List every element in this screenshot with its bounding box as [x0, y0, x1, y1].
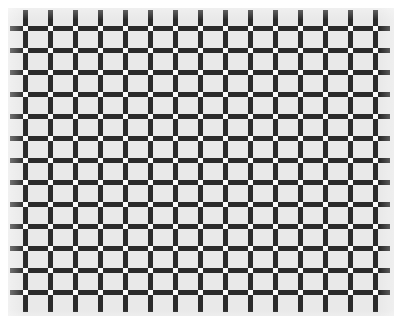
- grid-intersection-node: [148, 290, 153, 295]
- grid-intersection-node: [98, 70, 103, 75]
- grid-intersection-node: [23, 48, 28, 53]
- grid-intersection-node: [198, 26, 203, 31]
- grid-intersection-node: [223, 290, 228, 295]
- grid-intersection-node: [223, 246, 228, 251]
- grid-intersection-node: [373, 158, 378, 163]
- grid-intersection-node: [198, 158, 203, 163]
- grid-intersection-node: [273, 92, 278, 97]
- grid-intersection-node: [273, 26, 278, 31]
- grid-intersection-node: [248, 268, 253, 273]
- grid-intersection-node: [373, 224, 378, 229]
- grid-intersection-node: [123, 48, 128, 53]
- grid-intersection-node: [123, 180, 128, 185]
- grid-intersection-node: [73, 202, 78, 207]
- grid-intersection-node: [123, 114, 128, 119]
- grid-intersection-node: [298, 114, 303, 119]
- grid-intersection-node: [273, 48, 278, 53]
- grid-intersection-node: [48, 92, 53, 97]
- grid-intersection-node: [198, 180, 203, 185]
- grid-intersection-node: [98, 180, 103, 185]
- grid-intersection-node: [223, 224, 228, 229]
- grid-intersection-node: [298, 26, 303, 31]
- grid-intersection-node: [173, 224, 178, 229]
- grid-intersection-node: [173, 202, 178, 207]
- grid-intersection-node: [348, 202, 353, 207]
- grid-intersection-node: [123, 268, 128, 273]
- grid-intersection-node: [198, 114, 203, 119]
- grid-intersection-node: [73, 114, 78, 119]
- grid-intersection-node: [98, 290, 103, 295]
- grid-intersection-node: [23, 26, 28, 31]
- grid-intersection-node: [198, 70, 203, 75]
- grid-intersection-node: [298, 92, 303, 97]
- grid-intersection-node: [48, 246, 53, 251]
- grid-intersection-node: [73, 92, 78, 97]
- grid-intersection-node: [223, 202, 228, 207]
- grid-intersection-node: [98, 246, 103, 251]
- grid-intersection-node: [148, 70, 153, 75]
- grid-intersection-node: [223, 48, 228, 53]
- grid-intersection-node: [248, 48, 253, 53]
- grid-intersection-node: [248, 92, 253, 97]
- grid-intersection-node: [273, 114, 278, 119]
- grid-intersection-node: [273, 224, 278, 229]
- grid-intersection-node: [273, 136, 278, 141]
- grid-intersection-node: [348, 290, 353, 295]
- grid-intersection-node: [173, 180, 178, 185]
- grid-intersection-node: [148, 180, 153, 185]
- grid-intersection-node: [98, 224, 103, 229]
- grid-intersection-node: [148, 224, 153, 229]
- grid-intersection-node: [48, 268, 53, 273]
- grid-intersection-node: [98, 92, 103, 97]
- grid-intersection-node: [298, 202, 303, 207]
- grid-intersection-node: [273, 180, 278, 185]
- grid-intersection-node: [323, 26, 328, 31]
- grid-intersection-node: [148, 268, 153, 273]
- grid-intersection-node: [48, 26, 53, 31]
- grid-intersection-node: [373, 202, 378, 207]
- grid-intersection-node: [73, 158, 78, 163]
- grid-intersection-node: [48, 48, 53, 53]
- grid-intersection-node: [198, 48, 203, 53]
- grid-intersection-node: [123, 92, 128, 97]
- grid-intersection-node: [98, 114, 103, 119]
- grid-intersection-node: [123, 26, 128, 31]
- grid-intersection-node: [323, 92, 328, 97]
- grid-intersection-node: [198, 202, 203, 207]
- grid-intersection-node: [48, 202, 53, 207]
- grid-intersection-node: [148, 92, 153, 97]
- grid-intersection-node: [223, 92, 228, 97]
- grid-intersection-node: [323, 202, 328, 207]
- grid-intersection-node: [298, 268, 303, 273]
- grid-intersection-node: [48, 158, 53, 163]
- grid-intersection-node: [323, 114, 328, 119]
- grid-intersection-node: [223, 114, 228, 119]
- grid-intersection-node: [98, 26, 103, 31]
- grid-intersection-node: [348, 268, 353, 273]
- grid-intersection-node: [373, 180, 378, 185]
- grid-intersection-node: [223, 26, 228, 31]
- grid-intersection-node: [373, 246, 378, 251]
- grid-intersection-node: [148, 246, 153, 251]
- grid-intersection-node: [123, 290, 128, 295]
- grid-intersection-node: [248, 290, 253, 295]
- grid-intersection-node: [23, 92, 28, 97]
- grid-intersection-node: [373, 114, 378, 119]
- grid-intersection-node: [248, 158, 253, 163]
- grid-intersection-node: [348, 158, 353, 163]
- grid-intersection-node: [248, 202, 253, 207]
- grid-intersection-node: [148, 26, 153, 31]
- grid-intersection-node: [123, 136, 128, 141]
- grid-intersection-node: [348, 246, 353, 251]
- grid-intersection-node: [323, 290, 328, 295]
- grid-intersection-node: [348, 136, 353, 141]
- grid-intersection-node: [48, 180, 53, 185]
- grid-intersection-node: [248, 70, 253, 75]
- grid-intersection-node: [148, 48, 153, 53]
- grid-intersection-node: [23, 158, 28, 163]
- grid-intersection-node: [123, 70, 128, 75]
- grid-intersection-node: [23, 268, 28, 273]
- grid-intersection-node: [98, 158, 103, 163]
- grid-intersection-node: [198, 268, 203, 273]
- grid-intersection-node: [348, 48, 353, 53]
